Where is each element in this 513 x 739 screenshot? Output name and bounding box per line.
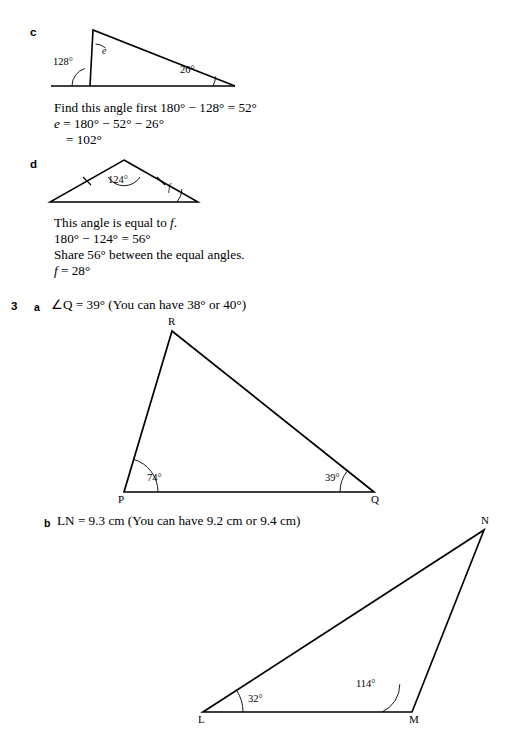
part-label-d: d: [30, 158, 37, 170]
vertex-label-Q: Q: [371, 493, 379, 505]
tick-mark-left: [83, 177, 91, 185]
angle-label-e: e: [102, 46, 106, 56]
angle-label-128: 128°: [53, 56, 73, 67]
triangle-c-svg: [45, 22, 270, 94]
triangle-lmn-outline: [203, 530, 484, 712]
angle-label-124: 124°: [108, 174, 128, 185]
question-3-part-b-label: b: [44, 517, 50, 529]
angle-label-26: 26°: [180, 64, 195, 75]
working-d-line3: Share 56° between the equal angles.: [54, 247, 245, 263]
angle-arc-128: [72, 69, 85, 87]
angle-arc-114: [382, 684, 400, 712]
working-c-line1: Find this angle first 180° − 128° = 52°: [54, 100, 257, 116]
angle-label-39: 39°: [325, 472, 340, 483]
working-d-line4-rest: = 28°: [58, 263, 91, 278]
angle-arc-32: [237, 691, 243, 712]
working-d-line2: 180° − 124° = 56°: [54, 231, 151, 247]
diagram-triangle-c: 128° 26° e: [45, 22, 270, 94]
diagram-triangle-lmn: L M N 32° 114°: [190, 518, 505, 730]
working-d-line1: This angle is equal to f.: [54, 215, 177, 231]
angle-label-f: f: [168, 183, 171, 193]
triangle-d-svg: [44, 154, 224, 210]
diagram-triangle-pqr: P Q R 74° 39°: [100, 315, 400, 505]
part-label-c: c: [30, 26, 36, 38]
triangle-pqr-svg: [100, 315, 400, 505]
working-c-line3: = 102°: [66, 132, 102, 148]
answer-page: c 128° 26° e Find this angle first 180° …: [0, 0, 513, 739]
question-3-part-a-label: a: [34, 301, 40, 313]
angle-label-32: 32°: [248, 693, 263, 704]
vertex-label-L: L: [198, 713, 205, 725]
diagram-triangle-d: 124° f: [44, 154, 224, 210]
vertex-label-N: N: [481, 514, 489, 526]
triangle-c-outline: [90, 30, 235, 86]
working-c-line2-rest: = 180° − 52° − 26°: [60, 116, 164, 131]
angle-label-74: 74°: [147, 472, 162, 483]
triangle-lmn-svg: [190, 518, 505, 730]
vertex-label-R: R: [168, 315, 175, 327]
angle-label-114: 114°: [356, 678, 376, 689]
vertex-label-P: P: [118, 493, 124, 505]
question-number-3: 3: [11, 300, 17, 312]
working-d-line1-post: .: [174, 215, 177, 230]
angle-arc-39: [340, 471, 348, 492]
working-d-line1-pre: This angle is equal to: [54, 215, 170, 230]
question-3-part-a-answer: ∠Q = 39° (You can have 38° or 40°): [51, 297, 246, 313]
vertex-label-M: M: [409, 713, 419, 725]
working-d-line4: f = 28°: [54, 263, 90, 279]
triangle-pqr-outline: [124, 331, 374, 492]
tick-mark-right: [157, 177, 165, 185]
working-c-line2: e = 180° − 52° − 26°: [54, 116, 164, 132]
